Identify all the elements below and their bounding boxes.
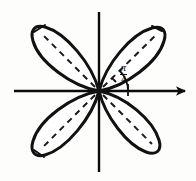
petal-upper-right (99, 27, 165, 91)
angle-label-numerator: π (120, 63, 127, 73)
angle-label-denominator: 4 (120, 75, 127, 84)
rose-curve-plot (0, 0, 196, 181)
angle-label-pi-over-4: π 4 (120, 63, 127, 84)
petal-lower-left (32, 91, 99, 156)
petal-upper-left (32, 26, 99, 91)
polar-rose-figure: π 4 (0, 0, 196, 181)
